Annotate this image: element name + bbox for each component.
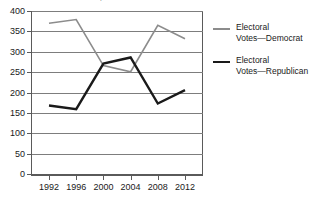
x-axis-label-2008: 2008	[148, 182, 168, 192]
x-axis-label-1992: 1992	[39, 182, 59, 192]
x-tick-1996	[76, 174, 77, 180]
x-axis-label-2000: 2000	[93, 182, 113, 192]
x-tick-2000	[103, 174, 104, 180]
legend-swatch-icon	[213, 61, 230, 63]
plot-area: 050100150200250300350400 199219962000200…	[31, 11, 203, 174]
x-tick-1992	[49, 174, 50, 180]
y-axis-label-100: 100	[10, 128, 25, 138]
x-tick-2012	[185, 174, 186, 180]
x-axis-label-2004: 2004	[121, 182, 141, 192]
legend-item-republican[interactable]: ElectoralVotes—Republican	[213, 55, 321, 77]
x-axis-label-1996: 1996	[66, 182, 86, 192]
legend-label-line1: Electoral	[236, 22, 303, 33]
chart-title: Elections, 1992–2012	[0, 0, 209, 3]
y-axis-label-300: 300	[10, 47, 25, 57]
data-series-layer	[31, 11, 203, 174]
x-axis-label-2012: 2012	[175, 182, 195, 192]
series-line-republican	[49, 57, 185, 109]
y-axis-label-400: 400	[10, 6, 25, 16]
legend-label: ElectoralVotes—Democrat	[236, 22, 303, 44]
legend-label-line2: Votes—Republican	[236, 66, 308, 77]
chart-legend: ElectoralVotes—DemocratElectoralVotes—Re…	[213, 22, 321, 88]
series-line-democrat	[49, 20, 185, 72]
x-tick-2008	[158, 174, 159, 180]
y-axis-label-50: 50	[15, 149, 25, 159]
legend-label: ElectoralVotes—Republican	[236, 55, 308, 77]
y-axis-label-0: 0	[20, 169, 25, 179]
x-tick-2004	[131, 174, 132, 180]
y-axis-label-200: 200	[10, 88, 25, 98]
y-tick-0	[27, 174, 32, 175]
legend-label-line1: Electoral	[236, 55, 308, 66]
y-axis-label-250: 250	[10, 67, 25, 77]
y-axis-label-150: 150	[10, 108, 25, 118]
y-axis-label-350: 350	[10, 26, 25, 36]
legend-swatch-icon	[213, 28, 230, 30]
legend-label-line2: Votes—Democrat	[236, 33, 303, 44]
chart-container: Elections, 1992–2012 0501001502002503003…	[0, 0, 321, 202]
legend-item-democrat[interactable]: ElectoralVotes—Democrat	[213, 22, 321, 44]
gridline-0	[31, 174, 203, 176]
